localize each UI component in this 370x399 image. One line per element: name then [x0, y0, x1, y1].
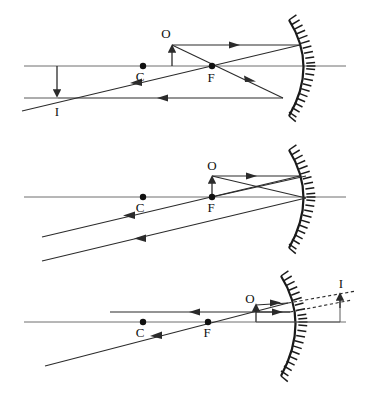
- ray-direction-arrow: [189, 309, 200, 316]
- label-focus-1: F: [207, 70, 214, 85]
- mirror-hatching: [289, 15, 316, 122]
- reflected-ray-through-focus-1: [22, 45, 300, 111]
- concave-mirror: [289, 20, 304, 116]
- label-image-1: I: [55, 104, 59, 119]
- point-focus-1: [209, 63, 215, 69]
- panel-object-at-focus: O C F: [24, 145, 346, 261]
- label-center-2: C: [136, 200, 145, 215]
- label-object-3: O: [245, 291, 254, 306]
- ray-direction-arrow: [246, 173, 257, 180]
- label-image-3: I: [339, 276, 343, 291]
- ray-direction-arrow: [244, 76, 256, 83]
- label-object-2: O: [207, 158, 216, 173]
- concave-mirror: [281, 276, 296, 376]
- optics-figure: O C F I: [0, 0, 370, 399]
- ray-direction-arrow: [134, 235, 146, 243]
- ray-diagram-canvas: O C F I: [0, 0, 370, 399]
- label-center-1: C: [136, 69, 145, 84]
- panel-object-inside-focus: O C F I: [24, 271, 356, 382]
- ray-direction-arrow: [229, 42, 240, 49]
- panel-object-beyond-focus: O C F I: [22, 15, 346, 122]
- mirror-hatching: [281, 271, 308, 382]
- label-object-1: O: [161, 26, 170, 41]
- reflected-ray-2b: [42, 198, 306, 261]
- reflected-ray-2a: [42, 176, 300, 237]
- label-focus-2: F: [207, 200, 214, 215]
- label-center-3: C: [136, 325, 145, 340]
- ray-direction-arrow: [157, 95, 168, 102]
- label-focus-3: F: [203, 325, 210, 340]
